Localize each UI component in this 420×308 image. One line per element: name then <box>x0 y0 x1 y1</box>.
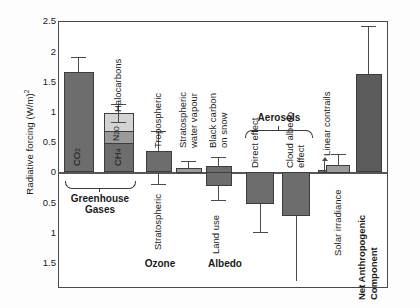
bar-label-net-anthropogenic-2: Component <box>369 247 379 300</box>
error-bar-co2 <box>78 57 79 72</box>
brace-tick-greenhouse-gases <box>99 188 100 192</box>
bar-solar-irradiance <box>326 165 350 173</box>
bar-net-anthropogenic-component <box>356 74 382 172</box>
group-label-aerosols: Aerosols <box>244 112 314 123</box>
y-tick-label-2.5: 2.5 <box>26 16 56 25</box>
bar-label-co2-text: CO <box>71 152 82 166</box>
y-tick-label-0.5: 0.5 <box>26 137 56 146</box>
bar-direct-effect <box>246 172 274 204</box>
y-tick-label-1.5: 1.5 <box>26 77 56 86</box>
bar-label-stratospheric: Stratospheric <box>153 194 163 250</box>
error-bar-direct-effect <box>260 204 261 232</box>
bar-label-ch4: CH4 <box>113 149 124 166</box>
error-bar-stratospheric-water-vapour <box>188 161 189 169</box>
bar-label-ch4-sub: 4 <box>115 149 122 153</box>
bar-label-n2o-sub: 2O <box>113 126 120 135</box>
y-tick-label-neg1: 1 <box>26 228 56 237</box>
bar-label-linear-contrails: Linear contrails <box>322 92 332 156</box>
error-bar-net-anthropogenic <box>368 26 369 74</box>
bar-label-cloud-albedo-line2: effect <box>296 145 306 168</box>
error-cap-direct-effect-bottom <box>253 232 268 233</box>
y-tick-label-neg1.5: 1.5 <box>26 258 56 267</box>
error-cap-solar-irradiance-top <box>331 154 346 155</box>
error-cap-co2-top <box>71 57 86 58</box>
bar-land-use <box>206 172 232 186</box>
bar-label-black-carbon-2: on snow <box>219 113 229 148</box>
y-tick-label-1: 1 <box>26 107 56 116</box>
error-bar-linear-contrails <box>324 160 325 172</box>
bar-tropospheric-ozone <box>146 151 172 172</box>
error-cap-tropospheric-ozone-bottom <box>151 184 166 185</box>
brace-tick-aerosols <box>278 126 279 130</box>
bar-label-strat-water-line2: water vapour <box>189 93 199 148</box>
error-bar-solar-irradiance <box>338 154 339 166</box>
bar-label-co2-sub: 2 <box>74 148 81 152</box>
group-label-greenhouse-line1: Greenhouse <box>52 193 148 204</box>
arrow-head-linear-contrails-icon <box>322 157 328 161</box>
bar-label-direct-effect: Direct effect <box>250 117 260 168</box>
bar-label-cloud-albedo-2: effect <box>296 145 306 168</box>
error-cap-halocarbons-bottom <box>111 122 126 123</box>
bar-label-stratospheric-water-vapour-2: water vapour <box>189 93 199 148</box>
bar-label-black-carbon: Black carbon <box>208 93 218 148</box>
group-label-greenhouse-line2: Gases <box>52 204 148 215</box>
bar-label-black-carbon-line1: Black carbon <box>208 93 218 148</box>
bar-label-co2: CO2 <box>72 148 83 166</box>
bar-label-net-anthropogenic: Net Anthropogenic <box>357 215 367 300</box>
bar-label-net-anthropogenic-line2: Component <box>369 247 379 300</box>
bar-label-halocarbons: Halocarbons <box>113 59 123 112</box>
error-bar-black-carbon <box>218 157 219 167</box>
y-axis-ticks: 2.5 2 1.5 1 0.5 0 0.5 1 1.5 <box>22 0 56 308</box>
bar-label-n2o-text: N <box>111 135 121 141</box>
error-bar-cloud-albedo <box>296 216 297 281</box>
bar-label-n2o: N2O <box>111 126 122 141</box>
bar-label-tropospheric: Tropospheric <box>153 93 163 148</box>
bar-label-land-use: Land use <box>211 215 221 254</box>
error-cap-black-carbon-top <box>211 157 226 158</box>
error-cap-stratospheric-water-vapour-top <box>181 161 196 162</box>
group-label-greenhouse-gases: Greenhouse Gases <box>52 193 148 215</box>
brace-greenhouse-gases <box>65 181 136 189</box>
error-cap-land-use-bottom <box>211 200 226 201</box>
y-tick-label-0: 0 <box>26 167 56 176</box>
bar-label-black-carbon-line2: on snow <box>219 113 229 148</box>
bar-label-stratospheric-water-vapour: Stratospheric <box>178 92 188 148</box>
bar-cloud-albedo-effect <box>282 172 310 216</box>
brace-aerosols <box>245 130 313 138</box>
group-label-albedo: Albedo <box>196 258 254 269</box>
bar-label-strat-water-line1: Stratospheric <box>178 92 188 148</box>
error-bar-land-use <box>218 186 219 200</box>
bar-label-net-anthropogenic-line1: Net Anthropogenic <box>357 215 367 300</box>
error-cap-net-anthropogenic-top <box>361 26 376 27</box>
group-label-ozone: Ozone <box>131 258 189 269</box>
radiative-forcing-chart: Radiative forcing (W/m)2 2.5 2 1.5 1 0.5… <box>0 0 420 308</box>
y-tick-label-2: 2 <box>26 47 56 56</box>
error-bar-tropospheric-ozone-bottom <box>158 172 159 184</box>
bar-label-solar-irradiance: Solar irradiance <box>333 189 343 256</box>
bar-label-ch4-text: CH <box>112 152 123 166</box>
